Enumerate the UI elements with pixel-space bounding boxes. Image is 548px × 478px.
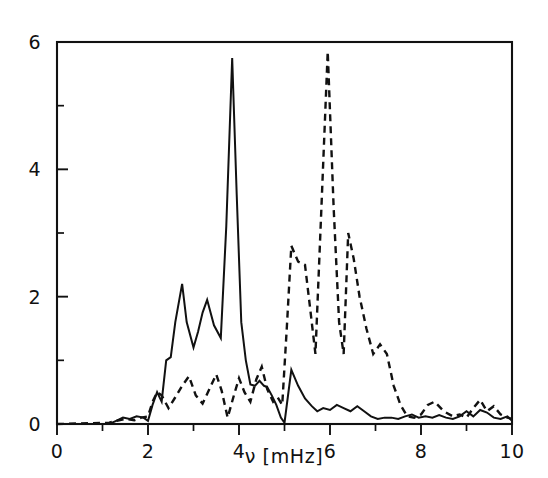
tick-labels-group: 02468100246: [29, 31, 525, 462]
series-dashed-line: [57, 52, 512, 424]
series-solid-line: [57, 58, 512, 424]
x-tick-label-0: 0: [51, 440, 63, 462]
spectrum-chart: 02468100246 ν [mHz]: [0, 0, 548, 478]
x-axis-label: ν [mHz]: [245, 445, 323, 467]
y-tick-label-4: 4: [29, 158, 41, 180]
figure-container: 02468100246 ν [mHz]: [0, 0, 548, 478]
y-tick-label-0: 0: [29, 413, 41, 435]
y-tick-label-6: 6: [29, 31, 41, 53]
plot-frame: [57, 42, 512, 424]
x-tick-label-4: 4: [233, 440, 245, 462]
x-tick-label-8: 8: [415, 440, 427, 462]
y-tick-label-2: 2: [29, 286, 41, 308]
x-tick-label-2: 2: [142, 440, 154, 462]
x-tick-label-10: 10: [500, 440, 525, 462]
x-tick-label-6: 6: [324, 440, 336, 462]
